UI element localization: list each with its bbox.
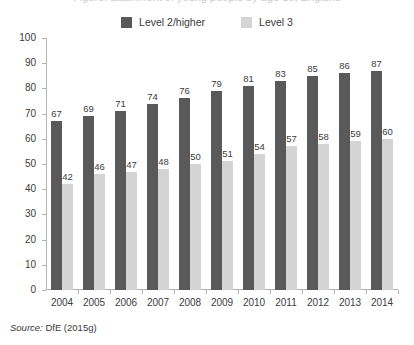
bar-value-2010-level2: 81 — [243, 74, 254, 84]
bar-group-2011: 83572011 — [270, 38, 302, 290]
bar-value-2008-level2: 76 — [179, 86, 190, 96]
bar-value-2009-level2: 79 — [211, 79, 222, 89]
x-axis-label-2006: 2006 — [115, 297, 137, 308]
x-axis-label-2010: 2010 — [243, 297, 265, 308]
x-tick-2006 — [142, 290, 143, 294]
y-tick-label-10: 10 — [25, 259, 36, 270]
y-tick-label-60: 60 — [25, 133, 36, 144]
y-tick-label-100: 100 — [19, 32, 36, 43]
bar-value-2011-level2: 83 — [275, 69, 286, 79]
legend-entry-level2: Level 2/higher — [121, 17, 205, 28]
bar-value-2004-level3: 42 — [62, 172, 73, 182]
bar-2006-level3[interactable]: 47 — [126, 172, 137, 290]
bar-value-2006-level3: 47 — [126, 160, 137, 170]
y-tick-label-40: 40 — [25, 183, 36, 194]
bar-value-2007-level2: 74 — [147, 92, 158, 102]
x-axis-label-2005: 2005 — [83, 297, 105, 308]
bar-2013-level3[interactable]: 59 — [350, 141, 361, 290]
x-axis-label-2007: 2007 — [147, 297, 169, 308]
bar-value-2006-level2: 71 — [115, 99, 126, 109]
x-tick-2008 — [206, 290, 207, 294]
bar-2005-level3[interactable]: 46 — [94, 174, 105, 290]
bar-value-2012-level3: 58 — [318, 132, 329, 142]
bar-group-2006: 71472006 — [110, 38, 142, 290]
bar-2007-level3[interactable]: 48 — [158, 169, 169, 290]
x-tick-2013 — [366, 290, 367, 294]
y-tick-label-30: 30 — [25, 208, 36, 219]
cropped-title-remnant: Figure: attainment of young people by ag… — [0, 0, 414, 5]
x-tick-2014 — [398, 290, 399, 294]
bar-2012-level2[interactable]: 85 — [307, 76, 318, 290]
x-axis-label-2004: 2004 — [51, 297, 73, 308]
bar-group-2005: 69462005 — [78, 38, 110, 290]
bar-2010-level3[interactable]: 54 — [254, 154, 265, 290]
bar-2008-level2[interactable]: 76 — [179, 98, 190, 290]
bar-value-2013-level3: 59 — [350, 129, 361, 139]
bar-value-2014-level2: 87 — [371, 59, 382, 69]
bar-value-2012-level2: 85 — [307, 64, 318, 74]
legend-swatch-level2 — [121, 17, 132, 28]
bar-2005-level2[interactable]: 69 — [83, 116, 94, 290]
bar-2009-level2[interactable]: 79 — [211, 91, 222, 290]
x-axis-label-2008: 2008 — [179, 297, 201, 308]
bar-2011-level3[interactable]: 57 — [286, 146, 297, 290]
bar-chart-plot-area: 1009080706050403020100 67422004694620057… — [46, 38, 398, 290]
bar-2006-level2[interactable]: 71 — [115, 111, 126, 290]
legend-swatch-level3 — [241, 17, 252, 28]
x-tick-2011 — [302, 290, 303, 294]
x-axis-label-2012: 2012 — [307, 297, 329, 308]
bar-value-2005-level2: 69 — [83, 104, 94, 114]
bar-group-2014: 87602014 — [366, 38, 398, 290]
x-tick-2007 — [174, 290, 175, 294]
bar-2010-level2[interactable]: 81 — [243, 86, 254, 290]
bar-2013-level2[interactable]: 86 — [339, 73, 350, 290]
bar-2014-level3[interactable]: 60 — [382, 139, 393, 290]
bar-group-2007: 74482007 — [142, 38, 174, 290]
y-tick-label-90: 90 — [25, 57, 36, 68]
bar-value-2014-level3: 60 — [382, 127, 393, 137]
x-axis-label-2014: 2014 — [371, 297, 393, 308]
bar-value-2007-level3: 48 — [158, 157, 169, 167]
bar-2008-level3[interactable]: 50 — [190, 164, 201, 290]
legend-label-level2: Level 2/higher — [139, 17, 205, 28]
bar-value-2004-level2: 67 — [51, 109, 62, 119]
source-text: DfE (2015g) — [45, 322, 96, 333]
x-tick-2010 — [270, 290, 271, 294]
bar-group-2013: 86592013 — [334, 38, 366, 290]
bar-value-2008-level3: 50 — [190, 152, 201, 162]
bar-group-2012: 85582012 — [302, 38, 334, 290]
bar-group-2008: 76502008 — [174, 38, 206, 290]
bar-value-2009-level3: 51 — [222, 149, 233, 159]
chart-legend: Level 2/higher Level 3 — [0, 14, 414, 30]
bar-group-2009: 79512009 — [206, 38, 238, 290]
legend-entry-level3: Level 3 — [241, 17, 293, 28]
source-note: Source: DfE (2015g) — [10, 322, 97, 333]
bar-2004-level3[interactable]: 42 — [62, 184, 73, 290]
bar-value-2010-level3: 54 — [254, 142, 265, 152]
source-prefix: Source: — [10, 322, 43, 333]
bar-2012-level3[interactable]: 58 — [318, 144, 329, 290]
bar-2011-level2[interactable]: 83 — [275, 81, 286, 290]
bar-group-2004: 67422004 — [46, 38, 78, 290]
bar-value-2013-level2: 86 — [339, 61, 350, 71]
x-axis-label-2011: 2011 — [275, 297, 297, 308]
y-tick-label-70: 70 — [25, 108, 36, 119]
x-tick-2012 — [334, 290, 335, 294]
bar-2014-level2[interactable]: 87 — [371, 71, 382, 290]
x-tick-2005 — [110, 290, 111, 294]
bar-2009-level3[interactable]: 51 — [222, 161, 233, 290]
bar-2004-level2[interactable]: 67 — [51, 121, 62, 290]
y-tick-label-20: 20 — [25, 234, 36, 245]
bar-group-2010: 81542010 — [238, 38, 270, 290]
x-axis-label-2013: 2013 — [339, 297, 361, 308]
y-tick-label-80: 80 — [25, 82, 36, 93]
bar-2007-level2[interactable]: 74 — [147, 104, 158, 290]
y-tick-0: 0 — [42, 290, 46, 291]
legend-label-level3: Level 3 — [259, 17, 293, 28]
bar-value-2005-level3: 46 — [94, 162, 105, 172]
x-tick-2004 — [78, 290, 79, 294]
x-tick-2009 — [238, 290, 239, 294]
y-tick-label-50: 50 — [25, 158, 36, 169]
bar-value-2011-level3: 57 — [286, 134, 297, 144]
x-axis-label-2009: 2009 — [211, 297, 233, 308]
